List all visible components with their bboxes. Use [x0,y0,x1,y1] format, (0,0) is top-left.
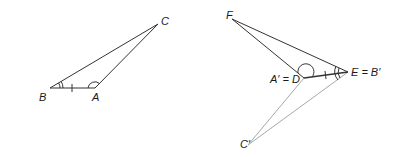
side-dc-prime [248,78,304,145]
side-fd [232,19,304,78]
label-c: C [161,15,169,27]
angle-arc-b-inner [59,83,60,88]
label-c-prime: C′ [240,138,251,150]
geometry-svg: C B A F A′ = D E = B′ C′ [0,0,394,157]
label-a-prime-d: A′ = D [269,73,300,85]
label-a: A [91,91,99,103]
label-e-b-prime: E = B′ [351,66,381,78]
triangle-def [232,19,348,80]
tick-mark-de [325,71,326,79]
triangle-abc [50,24,158,92]
side-fe [232,19,348,72]
diagram-canvas: C B A F A′ = D E = B′ C′ [0,0,394,157]
label-b: B [39,91,46,103]
angle-arc-b-outer [61,81,63,88]
